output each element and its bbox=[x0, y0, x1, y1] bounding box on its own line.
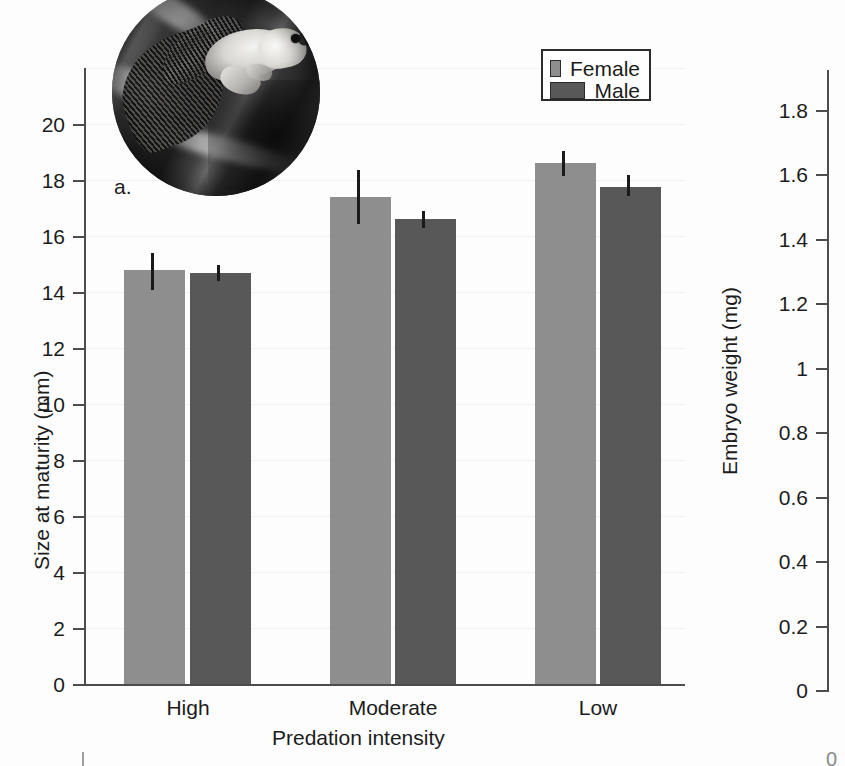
ytick-mark-6 bbox=[73, 516, 84, 518]
ytick-label-20: 20 bbox=[8, 114, 65, 135]
right-ytick-label-0: 0 bbox=[734, 680, 808, 701]
errorbar-female-high bbox=[151, 253, 154, 290]
panel-letter-a: a. bbox=[114, 175, 132, 199]
right-ytick-mark-1.8 bbox=[816, 110, 827, 112]
errorbar-male-moderate bbox=[422, 211, 425, 228]
legend-label-male: Male bbox=[594, 80, 640, 101]
right-ytick-mark-1.6 bbox=[816, 174, 827, 176]
ytick-label-0: 0 bbox=[8, 674, 65, 695]
ytick-mark-16 bbox=[73, 236, 84, 238]
legend-swatch-male-icon bbox=[550, 82, 585, 99]
ytick-mark-10 bbox=[73, 404, 84, 406]
bar-female-moderate[interactable] bbox=[330, 197, 391, 684]
legend-item-female[interactable]: Female bbox=[550, 57, 640, 79]
right-ytick-mark-0.6 bbox=[816, 497, 827, 499]
xtick-label-low: Low bbox=[538, 696, 658, 720]
right-ytick-label-1.2: 1.2 bbox=[734, 293, 808, 314]
right-ytick-label-0.6: 0.6 bbox=[734, 487, 808, 508]
right-ytick-label-1.6: 1.6 bbox=[734, 164, 808, 185]
bar-female-low[interactable] bbox=[535, 163, 596, 684]
ytick-mark-20 bbox=[73, 124, 84, 126]
right-ytick-label-0.8: 0.8 bbox=[734, 422, 808, 443]
guppy-photo-inset bbox=[112, 0, 320, 196]
left-y-axis-title: Size at maturity (mm) bbox=[30, 370, 54, 570]
bar-male-moderate[interactable] bbox=[395, 219, 456, 684]
fish-eye bbox=[291, 34, 300, 43]
xtick-label-high: High bbox=[128, 696, 248, 720]
crop-artifact-tick bbox=[82, 752, 84, 766]
crop-artifact-zero: 0 bbox=[826, 748, 837, 766]
right-ytick-label-1.8: 1.8 bbox=[734, 100, 808, 121]
ytick-mark-2 bbox=[73, 628, 84, 630]
left-chart-panel: 0 2 4 6 8 10 12 14 16 18 20 Size at matu… bbox=[0, 0, 690, 766]
right-ytick-mark-0 bbox=[816, 690, 827, 692]
right-ytick-mark-0.2 bbox=[816, 626, 827, 628]
right-ytick-label-0.4: 0.4 bbox=[734, 551, 808, 572]
ytick-mark-12 bbox=[73, 348, 84, 350]
ytick-mark-0 bbox=[73, 684, 84, 686]
right-ytick-mark-1.4 bbox=[816, 239, 827, 241]
ytick-label-18: 18 bbox=[8, 170, 65, 191]
xtick-label-moderate: Moderate bbox=[333, 696, 453, 720]
right-chart-axis-panel: 0 0.2 0.4 0.6 0.8 1 1.2 1.4 1.6 1.8 Embr… bbox=[690, 0, 845, 766]
x-axis-title: Predation intensity bbox=[272, 726, 445, 750]
ytick-label-14: 14 bbox=[8, 282, 65, 303]
errorbar-male-high bbox=[217, 265, 220, 281]
right-y-axis-spine bbox=[827, 70, 829, 692]
x-axis-spine bbox=[84, 684, 685, 686]
ytick-label-2: 2 bbox=[8, 618, 65, 639]
left-y-axis-spine bbox=[84, 68, 86, 685]
bar-female-high[interactable] bbox=[124, 270, 185, 684]
right-ytick-label-0.2: 0.2 bbox=[734, 616, 808, 637]
errorbar-male-low bbox=[627, 175, 630, 196]
right-ytick-mark-1 bbox=[816, 368, 827, 370]
legend-swatch-female-icon bbox=[550, 60, 561, 77]
legend-label-female: Female bbox=[570, 58, 640, 79]
ytick-mark-14 bbox=[73, 292, 84, 294]
legend: Female Male bbox=[541, 49, 651, 101]
errorbar-female-low bbox=[562, 151, 565, 176]
bar-male-high[interactable] bbox=[190, 273, 251, 684]
ytick-label-12: 12 bbox=[8, 338, 65, 359]
right-ytick-label-1: 1 bbox=[734, 358, 808, 379]
photo-shadow-region bbox=[208, 80, 320, 190]
ytick-mark-4 bbox=[73, 572, 84, 574]
right-y-axis-title: Embryo weight (mg) bbox=[718, 287, 742, 475]
right-ytick-mark-0.8 bbox=[816, 432, 827, 434]
right-ytick-label-1.4: 1.4 bbox=[734, 229, 808, 250]
ytick-mark-18 bbox=[73, 180, 84, 182]
bar-male-low[interactable] bbox=[600, 187, 661, 684]
right-ytick-mark-0.4 bbox=[816, 561, 827, 563]
errorbar-female-moderate bbox=[357, 170, 360, 224]
ytick-label-16: 16 bbox=[8, 226, 65, 247]
figure-panel-a: 0 2 4 6 8 10 12 14 16 18 20 Size at matu… bbox=[0, 0, 845, 766]
legend-item-male[interactable]: Male bbox=[550, 79, 640, 101]
ytick-mark-8 bbox=[73, 460, 84, 462]
right-ytick-mark-1.2 bbox=[816, 303, 827, 305]
